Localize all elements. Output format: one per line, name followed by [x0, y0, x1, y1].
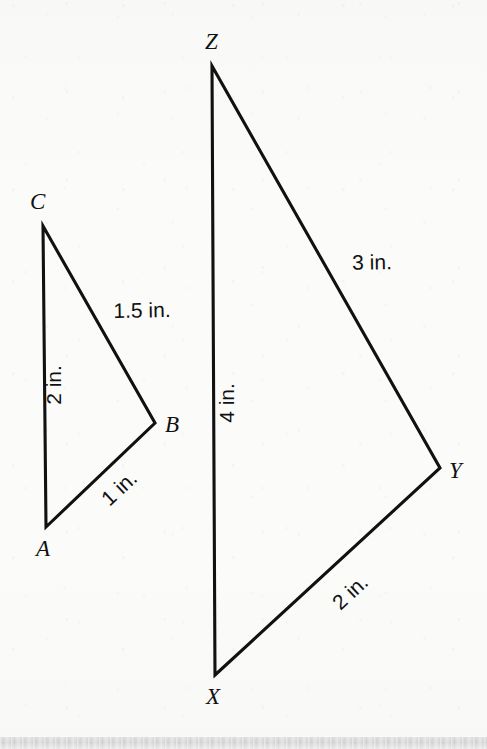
triangle-xyz-outline: [212, 66, 440, 675]
vertex-label-z: Z: [205, 30, 218, 53]
side-length-ca: 2 in.: [43, 365, 64, 405]
vertex-label-a: A: [36, 537, 50, 560]
geometry-figure-canvas: C A B 2 in. 1.5 in. 1 in. Z X Y 4 in. 3 …: [0, 0, 487, 749]
triangles-drawing: [0, 0, 487, 749]
vertex-label-x: X: [206, 685, 220, 708]
side-length-zx: 4 in.: [216, 383, 237, 423]
scan-edge-strip: [0, 737, 487, 749]
side-length-zy: 3 in.: [352, 251, 392, 273]
vertex-label-c: C: [30, 190, 45, 213]
side-length-cb: 1.5 in.: [113, 299, 171, 321]
vertex-label-y: Y: [449, 459, 462, 482]
vertex-label-b: B: [165, 413, 179, 436]
